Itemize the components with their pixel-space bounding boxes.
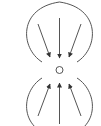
center-point <box>56 67 63 74</box>
top-lobe <box>27 2 93 62</box>
bottom-lobe <box>27 78 93 126</box>
field-arrow <box>38 84 50 116</box>
field-arrow <box>69 84 81 116</box>
bottom-arrows <box>38 83 81 124</box>
top-arrows <box>38 18 81 58</box>
field-arrow <box>69 24 81 57</box>
field-diagram <box>0 0 101 126</box>
field-arrow <box>38 24 50 57</box>
